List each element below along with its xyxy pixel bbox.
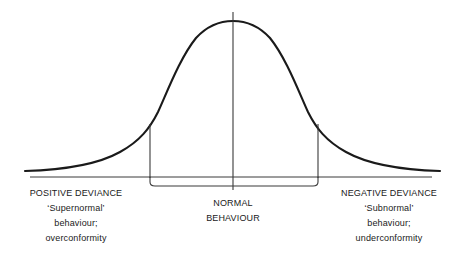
- figure-container: POSITIVE DEVIANCE ‘Supernormal’ behaviou…: [0, 0, 458, 258]
- label-positive-deviance: POSITIVE DEVIANCE ‘Supernormal’ behaviou…: [6, 186, 146, 246]
- negative-deviance-heading: NEGATIVE DEVIANCE: [320, 186, 458, 201]
- label-normal-behaviour: NORMAL BEHAVIOUR: [178, 196, 288, 226]
- positive-deviance-heading: POSITIVE DEVIANCE: [6, 186, 146, 201]
- positive-deviance-line2: ‘Supernormal’: [6, 201, 146, 216]
- negative-deviance-line2: ‘Subnormal’: [320, 201, 458, 216]
- positive-deviance-line4: overconformity: [6, 231, 146, 246]
- positive-deviance-line3: behaviour;: [6, 216, 146, 231]
- negative-deviance-line4: underconformity: [320, 231, 458, 246]
- normal-behaviour-line1: NORMAL: [178, 196, 288, 211]
- label-negative-deviance: NEGATIVE DEVIANCE ‘Subnormal’ behaviour;…: [320, 186, 458, 246]
- normal-behaviour-line2: BEHAVIOUR: [178, 211, 288, 226]
- negative-deviance-line3: behaviour;: [320, 216, 458, 231]
- normal-range-brace: [150, 177, 318, 186]
